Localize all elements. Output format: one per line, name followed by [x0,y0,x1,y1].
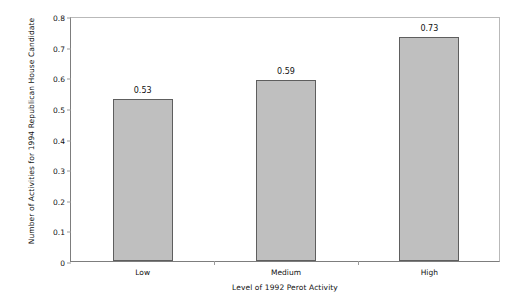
plot-area: 00.10.20.30.40.50.60.70.80.53Low0.59Medi… [70,17,500,262]
x-category-label: Low [135,268,150,277]
bar-value-label: 0.73 [420,24,438,33]
x-tick-mark [358,261,359,265]
bar-group: 0.59 [214,18,357,261]
x-axis-title: Level of 1992 Perot Activity [70,283,500,292]
bar-group: 0.73 [358,18,501,261]
bar-value-label: 0.59 [277,67,295,76]
x-tick-mark [214,261,215,265]
bar [113,99,173,261]
bar [399,37,459,261]
y-axis-title: Number of Activities for 1994 Republican… [22,0,42,262]
bar-value-label: 0.53 [134,86,152,95]
x-category-label: Medium [271,268,301,277]
bar-chart: Number of Activities for 1994 Republican… [0,0,517,302]
y-tick-mark [67,263,71,264]
bar [256,80,316,261]
x-category-label: High [421,268,438,277]
bar-group: 0.53 [71,18,214,261]
